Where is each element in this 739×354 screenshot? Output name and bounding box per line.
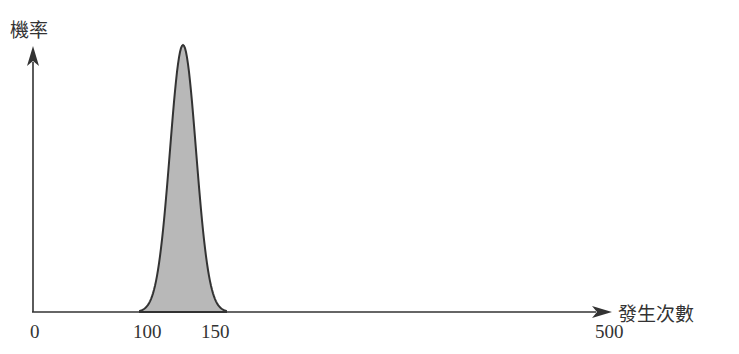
- x-tick-150: 150: [201, 321, 230, 343]
- y-axis-label: 機率: [10, 15, 48, 42]
- x-axis-label: 發生次數: [618, 299, 694, 326]
- x-tick-0: 0: [30, 321, 40, 343]
- x-tick-500: 500: [595, 321, 624, 343]
- x-tick-100: 100: [133, 321, 162, 343]
- distribution-curve: [140, 45, 226, 312]
